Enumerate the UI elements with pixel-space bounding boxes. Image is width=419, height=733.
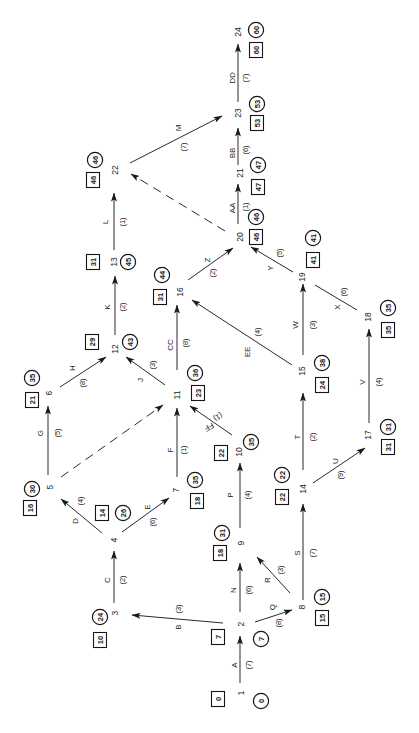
activity-V[interactable]: V(4) bbox=[358, 329, 383, 423]
earliest-time-box: 31 bbox=[154, 290, 167, 305]
activity-W[interactable]: W(3) bbox=[291, 284, 317, 355]
activity-duration: (7) bbox=[308, 548, 317, 558]
event-node-20[interactable]: 204646 bbox=[235, 209, 264, 244]
latest-time-circle: 35 bbox=[380, 300, 395, 315]
event-node-15[interactable]: 152438 bbox=[297, 355, 330, 392]
activity-arrow[interactable] bbox=[132, 615, 223, 623]
activity-duration: (7) bbox=[241, 73, 250, 83]
earliest-time-box: 22 bbox=[276, 490, 289, 505]
activity-J[interactable]: J(3) bbox=[126, 357, 165, 385]
event-node-4[interactable]: 41426 bbox=[96, 505, 131, 542]
latest-time-value: 35 bbox=[247, 438, 256, 446]
activity-S[interactable]: S(7) bbox=[293, 504, 317, 600]
earliest-time-box: 10 bbox=[94, 633, 107, 648]
earliest-time-value: 53 bbox=[253, 119, 262, 127]
event-node-17[interactable]: 173131 bbox=[363, 419, 396, 454]
latest-time-circle: 45 bbox=[120, 254, 135, 269]
activity-label: C bbox=[103, 577, 112, 583]
dummy-activity-20-22[interactable] bbox=[131, 174, 225, 231]
activity-R[interactable]: R(3) bbox=[257, 557, 290, 593]
dummy-activity-5-11[interactable] bbox=[61, 405, 163, 477]
activity-duration: (8) bbox=[78, 378, 87, 388]
event-node-19[interactable]: 194141 bbox=[297, 230, 321, 281]
latest-time-value: 22 bbox=[278, 471, 287, 479]
activity-B[interactable]: B(3) bbox=[132, 604, 223, 630]
latest-time-value: 36 bbox=[191, 369, 200, 377]
node-number: 8 bbox=[297, 604, 307, 609]
activity-label: Z bbox=[203, 257, 212, 262]
activity-CC[interactable]: CC(8) bbox=[166, 305, 190, 370]
latest-time-value: 31 bbox=[384, 423, 393, 431]
activity-G[interactable]: G(5) bbox=[36, 406, 62, 475]
latest-time-value: 0 bbox=[257, 699, 266, 703]
event-node-16[interactable]: 163144 bbox=[154, 267, 186, 304]
activity-F[interactable]: F(1) bbox=[166, 408, 188, 477]
event-node-13[interactable]: 133145 bbox=[87, 254, 136, 269]
activity-L[interactable]: L(1) bbox=[101, 193, 127, 250]
dummy-arrow[interactable] bbox=[131, 174, 225, 231]
latest-time-circle: 46 bbox=[248, 209, 263, 224]
earliest-time-value: 41 bbox=[309, 256, 318, 264]
activity-EE[interactable]: EE(4) bbox=[192, 300, 292, 365]
activity-FF[interactable]: FF(1) bbox=[190, 406, 232, 435]
activity-label: J bbox=[136, 378, 145, 382]
activity-Y[interactable]: Y(5) bbox=[251, 247, 293, 272]
activity-DD[interactable]: DD(7) bbox=[228, 44, 250, 102]
node-number: 12 bbox=[110, 344, 120, 354]
node-number: 1 bbox=[236, 690, 246, 695]
node-number: 16 bbox=[175, 287, 185, 297]
activity-U[interactable]: U(9) bbox=[313, 448, 365, 483]
activity-arrow[interactable] bbox=[257, 557, 290, 593]
latest-time-circle: 35 bbox=[24, 370, 39, 385]
latest-time-value: 47 bbox=[254, 161, 263, 169]
activity-K[interactable]: K(2) bbox=[103, 276, 127, 335]
latest-time-value: 38 bbox=[318, 359, 327, 367]
event-node-1[interactable]: 100 bbox=[212, 690, 269, 708]
activity-Z[interactable]: Z(2) bbox=[188, 248, 233, 280]
earliest-time-value: 15 bbox=[318, 614, 327, 622]
activity-label: U bbox=[331, 458, 340, 464]
activity-T[interactable]: T(2) bbox=[293, 393, 317, 470]
earliest-time-box: 22 bbox=[215, 446, 228, 461]
activity-H[interactable]: H(8) bbox=[60, 357, 106, 388]
latest-time-circle: 41 bbox=[305, 230, 320, 245]
activity-duration: (5) bbox=[275, 248, 284, 258]
latest-time-circle: 46 bbox=[87, 152, 102, 167]
event-node-5[interactable]: 51630 bbox=[24, 481, 56, 515]
event-node-18[interactable]: 183535 bbox=[363, 300, 396, 337]
activity-C[interactable]: C(2) bbox=[103, 551, 127, 603]
event-node-21[interactable]: 214747 bbox=[235, 157, 266, 194]
activity-BB[interactable]: BB(6) bbox=[228, 128, 250, 165]
dummy-arrow[interactable] bbox=[61, 405, 163, 477]
event-node-10[interactable]: 102235 bbox=[215, 434, 259, 460]
activity-duration: (6) bbox=[241, 145, 250, 155]
event-node-14[interactable]: 142222 bbox=[274, 467, 308, 504]
event-node-8[interactable]: 81515 bbox=[297, 589, 330, 625]
activity-AA[interactable]: AA(1) bbox=[228, 184, 250, 224]
node-number: 17 bbox=[363, 430, 373, 440]
activity-A[interactable]: A(7) bbox=[230, 636, 253, 683]
event-node-11[interactable]: 112336 bbox=[172, 365, 205, 400]
earliest-time-value: 46 bbox=[89, 176, 98, 184]
activity-label: R bbox=[263, 577, 272, 583]
activity-M[interactable]: M(7) bbox=[130, 116, 222, 163]
earliest-time-box: 41 bbox=[307, 253, 320, 268]
activity-P[interactable]: P(4) bbox=[226, 463, 252, 528]
event-node-3[interactable]: 31024 bbox=[92, 609, 120, 647]
latest-time-circle: 31 bbox=[380, 419, 395, 434]
event-node-12[interactable]: 122943 bbox=[86, 334, 138, 353]
activity-Q[interactable]: Q(8) bbox=[255, 604, 292, 628]
latest-time-circle: 53 bbox=[249, 96, 264, 111]
activity-label: L bbox=[101, 219, 110, 224]
event-node-22[interactable]: 224646 bbox=[87, 152, 121, 187]
latest-time-value: 41 bbox=[309, 234, 318, 242]
latest-time-value: 45 bbox=[124, 258, 133, 266]
event-node-9[interactable]: 91831 bbox=[214, 525, 247, 560]
activity-N[interactable]: N(6) bbox=[229, 563, 253, 612]
activity-arrow[interactable] bbox=[130, 116, 222, 163]
event-node-6[interactable]: 62135 bbox=[24, 370, 54, 407]
latest-time-value: 30 bbox=[28, 485, 37, 493]
activity-arrow[interactable] bbox=[126, 357, 165, 385]
activity-X[interactable]: X(6) bbox=[315, 285, 357, 310]
event-node-7[interactable]: 71835 bbox=[171, 472, 204, 508]
